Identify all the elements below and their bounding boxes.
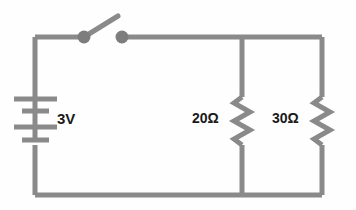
circuit-diagram-canvas: 3V 20Ω 30Ω <box>0 0 356 210</box>
switch-terminal-left[interactable] <box>78 31 91 44</box>
circuit-schematic <box>0 0 356 210</box>
resistor-20-ohm-label: 20Ω <box>192 111 219 125</box>
battery-symbol <box>14 99 57 140</box>
switch-symbol[interactable] <box>78 16 129 44</box>
resistor-30-ohm-zigzag <box>314 97 330 145</box>
resistor-30-ohm-label: 30Ω <box>272 111 299 125</box>
resistor-30-ohm-symbol <box>314 97 330 145</box>
resistor-20-ohm-symbol <box>234 97 250 145</box>
battery-voltage-label: 3V <box>57 111 75 126</box>
switch-terminal-right[interactable] <box>116 31 129 44</box>
resistor-20-ohm-zigzag <box>234 97 250 145</box>
